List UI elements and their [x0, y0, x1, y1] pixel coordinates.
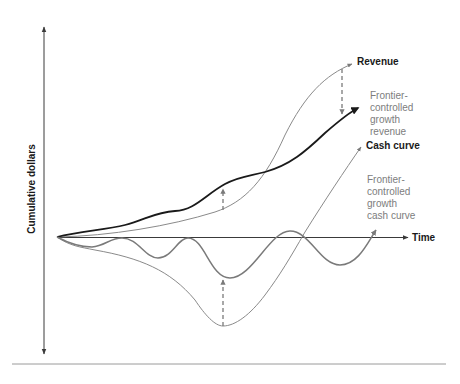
- y-axis-label: Cumulative dollars: [26, 144, 37, 233]
- label-cash-curve: Cash curve: [366, 140, 420, 152]
- fc-revenue-curve: [57, 108, 358, 237]
- cash-curve: [57, 147, 361, 326]
- label-fc-cash: Frontier- controlled growth cash curve: [367, 174, 415, 222]
- label-revenue: Revenue: [357, 56, 399, 68]
- revenue-curve: [57, 64, 352, 237]
- x-axis-label: Time: [412, 232, 435, 244]
- label-fc-revenue: Frontier- controlled growth revenue: [370, 90, 413, 138]
